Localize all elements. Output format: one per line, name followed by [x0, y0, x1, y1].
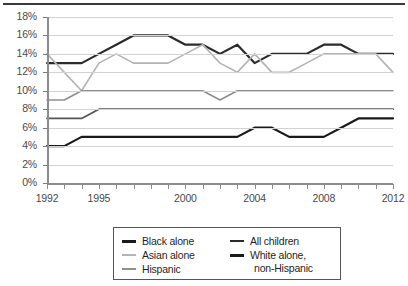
x-axis-tick — [151, 184, 152, 189]
chart-series-line — [47, 35, 393, 63]
chart-gridline — [47, 91, 393, 92]
y-axis-label: 4% — [3, 139, 37, 151]
chart-gridline — [47, 35, 393, 36]
x-axis-label: 2008 — [302, 192, 346, 204]
chart-series-line — [47, 118, 393, 146]
y-axis-label: 12% — [3, 65, 37, 77]
x-axis-tick — [358, 184, 359, 189]
y-axis-label: 14% — [3, 47, 37, 59]
x-axis-tick — [47, 184, 48, 189]
chart-gridline — [47, 54, 393, 55]
x-axis-tick — [64, 184, 65, 189]
line-chart: 0%2%4%6%8%10%12%14%16%18%199219952000200… — [0, 0, 408, 212]
x-axis-tick — [324, 184, 325, 189]
x-axis-tick — [307, 184, 308, 189]
legend-swatch — [230, 254, 244, 257]
x-axis-tick — [341, 184, 342, 189]
x-axis-label: 2012 — [371, 192, 408, 204]
legend-swatch — [122, 268, 136, 270]
chart-legend: Black aloneAsian aloneHispanicAll childr… — [113, 227, 341, 280]
chart-series-line — [47, 91, 393, 100]
x-axis-label: 2000 — [163, 192, 207, 204]
legend-label[interactable]: Asian alone — [142, 249, 195, 261]
chart-gridline — [47, 128, 393, 129]
x-axis-tick — [289, 184, 290, 189]
y-axis-label: 8% — [3, 102, 37, 114]
x-axis-tick — [237, 184, 238, 189]
chart-plot-svg — [0, 0, 408, 212]
legend-label[interactable]: All children — [250, 235, 299, 247]
y-axis-label: 10% — [3, 84, 37, 96]
x-axis-tick — [376, 184, 377, 189]
x-axis-tick — [203, 184, 204, 189]
chart-gridline — [47, 165, 393, 166]
x-axis-label: 1995 — [77, 192, 121, 204]
y-axis-label: 6% — [3, 121, 37, 133]
x-axis-tick — [82, 184, 83, 189]
y-axis-line — [47, 17, 49, 184]
chart-series-line — [47, 45, 393, 91]
x-axis-tick — [255, 184, 256, 189]
y-axis-label: 16% — [3, 28, 37, 40]
chart-gridline — [47, 109, 393, 110]
legend-label[interactable]: Hispanic — [142, 263, 181, 275]
y-axis-label: 18% — [3, 10, 37, 22]
x-axis-tick — [99, 184, 100, 189]
x-axis-tick — [272, 184, 273, 189]
legend-label-continuation: non-Hispanic — [254, 262, 313, 274]
x-axis-tick — [134, 184, 135, 189]
chart-gridline — [47, 72, 393, 73]
legend-swatch — [122, 254, 136, 256]
legend-swatch — [122, 240, 136, 243]
x-axis-tick — [185, 184, 186, 189]
legend-swatch — [230, 240, 244, 242]
x-axis-label: 2004 — [233, 192, 277, 204]
legend-label[interactable]: White alone, — [250, 249, 306, 261]
chart-gridline — [47, 17, 393, 18]
legend-label[interactable]: Black alone — [142, 235, 194, 247]
y-axis-label: 2% — [3, 158, 37, 170]
x-axis-tick — [168, 184, 169, 189]
y-axis-label: 0% — [3, 176, 37, 188]
x-axis-label: 1992 — [25, 192, 69, 204]
x-axis-tick — [116, 184, 117, 189]
chart-series-line — [47, 109, 393, 118]
x-axis-tick — [220, 184, 221, 189]
chart-gridline — [47, 146, 393, 147]
x-axis-tick — [393, 184, 394, 189]
